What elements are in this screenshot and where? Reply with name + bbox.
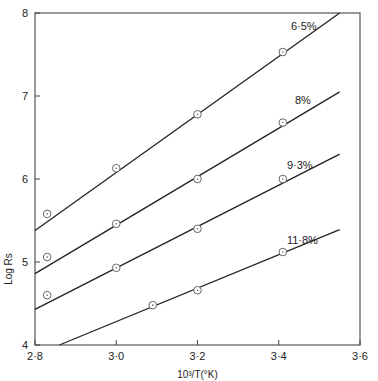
y-tick-label: 7 <box>22 90 28 102</box>
data-point-center <box>46 213 48 215</box>
data-point-center <box>115 223 117 225</box>
chart: 456782·83·03·23·43·610³/T(°K)Log Rs6·5%8… <box>0 0 378 381</box>
x-tick-label: 3·0 <box>108 350 124 362</box>
data-point-center <box>282 178 284 180</box>
series-label: 8% <box>295 94 311 106</box>
x-tick-label: 2·8 <box>27 350 43 362</box>
x-tick-label: 3·6 <box>352 350 368 362</box>
series-label: 11·8% <box>287 234 318 246</box>
data-point-center <box>46 294 48 296</box>
data-point-center <box>115 167 117 169</box>
fit-line <box>35 92 340 274</box>
fit-line <box>35 154 340 309</box>
data-point-center <box>282 51 284 53</box>
fit-line <box>35 13 340 230</box>
data-point-center <box>152 304 154 306</box>
x-axis-label: 10³/T(°K) <box>177 369 218 380</box>
data-point-center <box>197 289 199 291</box>
data-point-center <box>46 256 48 258</box>
x-tick-label: 3·4 <box>271 350 287 362</box>
y-tick-label: 6 <box>22 173 28 185</box>
data-point-center <box>282 122 284 124</box>
data-point-center <box>115 267 117 269</box>
data-point-center <box>197 113 199 115</box>
data-point-center <box>197 228 199 230</box>
y-axis-label: Log Rs <box>3 253 14 285</box>
data-point-center <box>197 178 199 180</box>
y-tick-label: 5 <box>22 256 28 268</box>
y-tick-label: 8 <box>22 7 28 19</box>
data-point-center <box>282 251 284 253</box>
series-label: 9·3% <box>287 159 313 171</box>
series-label: 6·5% <box>291 20 317 32</box>
x-tick-label: 3·2 <box>190 350 206 362</box>
